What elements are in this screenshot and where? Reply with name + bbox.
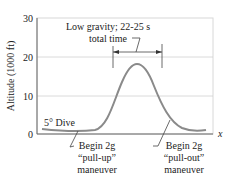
arrow-right-icon xyxy=(156,50,162,54)
dive-label: 5° Dive xyxy=(44,117,75,128)
y-tick-10: 10 xyxy=(23,91,33,102)
y-tick-30: 30 xyxy=(23,13,33,24)
pull-up-label-line1: Begin 2g xyxy=(79,140,115,151)
arrow-left-icon xyxy=(113,50,119,54)
low-gravity-label-line2: total time xyxy=(89,33,128,44)
pull-up-leader xyxy=(70,131,78,147)
pull-up-label-line2: “pull-up” xyxy=(78,152,116,163)
x-axis-label: x xyxy=(217,128,223,139)
y-tick-20: 20 xyxy=(23,52,33,63)
y-tick-0: 0 xyxy=(28,129,33,140)
pull-out-label-line2: “pull-out” xyxy=(164,152,205,163)
low-gravity-leader xyxy=(132,38,140,52)
y-axis-label: Altitude (1000 ft) xyxy=(5,41,17,112)
chart: 30 20 10 0 Altitude (1000 ft) x Low grav… xyxy=(0,0,232,184)
pull-out-label-line1: Begin 2g xyxy=(166,140,202,151)
pull-out-label-line3: maneuver xyxy=(164,164,204,175)
pull-up-label-line3: maneuver xyxy=(77,164,117,175)
low-gravity-label-line1: Low gravity; 22-25 s xyxy=(66,21,150,32)
